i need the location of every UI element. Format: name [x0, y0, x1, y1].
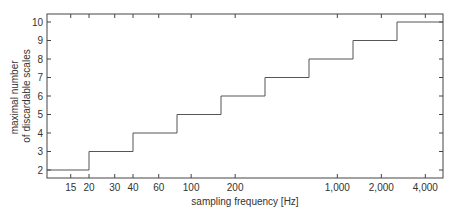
x-axis-label: sampling frequency [Hz] [191, 196, 298, 207]
y-tick-label: 7 [37, 72, 43, 83]
y-tick-label: 2 [37, 165, 43, 176]
y-tick-label: 9 [37, 35, 43, 46]
x-tick-label: 15 [65, 182, 77, 193]
y-tick-label: 4 [37, 128, 43, 139]
y-axis-label-line-1: maximal number [9, 60, 20, 135]
x-tick-label: 100 [183, 182, 200, 193]
x-tick-label: 20 [83, 182, 95, 193]
y-tick-label: 3 [37, 146, 43, 157]
y-tick-label: 5 [37, 109, 43, 120]
data-series-step-line [47, 22, 443, 170]
x-tick-label: 200 [227, 182, 244, 193]
x-tick-label: 30 [109, 182, 121, 193]
x-tick-label: 60 [153, 182, 165, 193]
y-tick-label: 8 [37, 54, 43, 65]
x-tick-label: 4,000 [413, 182, 438, 193]
x-tick-label: 40 [127, 182, 139, 193]
step-chart: 15203040601002001,0002,0004,000 23456789… [0, 0, 455, 213]
y-tick-label: 10 [32, 17, 44, 28]
y-tick-label: 6 [37, 91, 43, 102]
y-axis-label: maximal number of discardable scales [9, 49, 32, 142]
x-tick-label: 1,000 [325, 182, 350, 193]
y-axis-label-line-2: of discardable scales [21, 49, 32, 142]
x-tick-label: 2,000 [369, 182, 394, 193]
